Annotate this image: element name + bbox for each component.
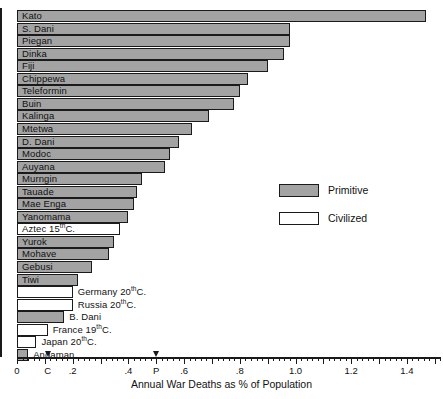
axis-tick (296, 357, 297, 364)
axis-tick (112, 357, 113, 361)
bar-primitive (17, 60, 268, 72)
bar-label-text: Chippewa (22, 73, 65, 84)
bar-label: Murngin (22, 173, 57, 185)
axis-tick-label: .2 (69, 365, 77, 376)
bar-label: Dinka (22, 48, 47, 60)
bar-label-text: Piegan (22, 35, 52, 46)
axis-tick (307, 357, 308, 361)
bar-row: Fiji (17, 60, 443, 72)
bar-row: B. Dani (17, 311, 443, 323)
axis-tick (340, 357, 341, 361)
axis-tick (412, 357, 413, 361)
axis-tick (117, 357, 118, 361)
bar-label-text: Modoc (22, 148, 51, 159)
bar-label: Mae Enga (22, 198, 66, 210)
axis-tick (379, 357, 380, 364)
bar-row: Gebusi (17, 261, 443, 273)
bar-row: Auyana (17, 161, 443, 173)
axis-tick (251, 357, 252, 361)
axis-tick (212, 357, 213, 364)
bar-label-text: Mohave (22, 248, 56, 259)
bar-row: Buin (17, 98, 443, 110)
axis-tick (201, 357, 202, 361)
axis-tick (262, 357, 263, 361)
bar-label-text: Germany 20 (78, 286, 131, 297)
bar-label-text: Kalinga (22, 110, 54, 121)
legend-label: Civilized (328, 212, 367, 224)
bar-label: Yanomama (22, 211, 71, 223)
axis-tick (284, 357, 285, 361)
axis-tick (206, 357, 207, 361)
axis-tick (67, 357, 68, 361)
bar-label-text: Aztec 15 (22, 223, 60, 234)
axis-tick (401, 357, 402, 361)
bar-label-text: Russia 20 (78, 299, 121, 310)
bar-row: Chippewa (17, 73, 443, 85)
bar-civilized (17, 336, 36, 348)
axis-tick (440, 357, 441, 361)
bar-label-text: Tauade (22, 186, 54, 197)
bar-label-text: Tiwi (22, 274, 39, 285)
bar-label-text: D. Dani (22, 136, 54, 147)
axis-tick (17, 357, 18, 364)
bar-primitive (17, 10, 426, 22)
bar-civilized (17, 324, 48, 336)
bar-row: Germany 20thC. (17, 286, 443, 298)
bar-row: D. Dani (17, 136, 443, 148)
axis-tick (28, 357, 29, 361)
bar-row: Dinka (17, 48, 443, 60)
bar-label: Piegan (22, 35, 52, 47)
axis-tick (429, 357, 430, 361)
bar-label: Auyana (22, 161, 55, 173)
axis-tick-label: 1.0 (289, 365, 302, 376)
axis-tick (184, 357, 185, 364)
bar-label-tail: C. (65, 223, 75, 234)
bar-primitive (17, 98, 234, 110)
axis-tick (257, 357, 258, 361)
axis-tick (435, 357, 436, 364)
bar-label: Tauade (22, 186, 54, 198)
bar-row: Teleformin (17, 85, 443, 97)
axis-tick (290, 357, 291, 361)
bar-label: Tiwi (22, 274, 39, 286)
axis-tick (268, 357, 269, 364)
legend-item-primitive: Primitive (279, 183, 368, 197)
axis-tick (23, 357, 24, 361)
bar-primitive (17, 23, 290, 35)
axis-tick (50, 357, 51, 361)
bar-label-text: Yanomama (22, 211, 71, 222)
axis-marker-arrow-c (45, 351, 51, 357)
axis-tick (273, 357, 274, 361)
legend-label: Primitive (328, 184, 368, 196)
bar-row: Mtetwa (17, 123, 443, 135)
axis-tick (128, 357, 129, 364)
bar-civilized (17, 286, 73, 298)
axis-tick-label: 1.4 (400, 365, 413, 376)
bar-label: Aztec 15thC. (22, 223, 75, 235)
axis-tick (145, 357, 146, 361)
axis-tick (385, 357, 386, 361)
axis-tick (123, 357, 124, 361)
axis-tick (223, 357, 224, 361)
bar-civilized (17, 299, 73, 311)
axis-tick-label: 1.2 (345, 365, 358, 376)
bar-row: Kalinga (17, 110, 443, 122)
axis-tick (151, 357, 152, 361)
axis-tick (84, 357, 85, 361)
bar-label: Mtetwa (22, 123, 53, 135)
axis-tick (396, 357, 397, 361)
axis-tick (407, 357, 408, 364)
bar-label-text: Yurok (22, 236, 47, 247)
bar-label: Kato (22, 10, 42, 22)
bar-label-text: S. Dani (22, 23, 54, 34)
axis-tick (34, 357, 35, 361)
axis-tick-label: 0 (14, 365, 19, 376)
axis-tick (323, 357, 324, 364)
bar-label-tail: C. (87, 336, 97, 347)
axis-marker-arrow-p (153, 351, 159, 357)
bar-row: France 19thC. (17, 324, 443, 336)
axis-tick (390, 357, 391, 361)
chart-legend: PrimitiveCivilized (279, 183, 368, 239)
bar-label: Teleformin (22, 85, 67, 97)
axis-tick (424, 357, 425, 361)
